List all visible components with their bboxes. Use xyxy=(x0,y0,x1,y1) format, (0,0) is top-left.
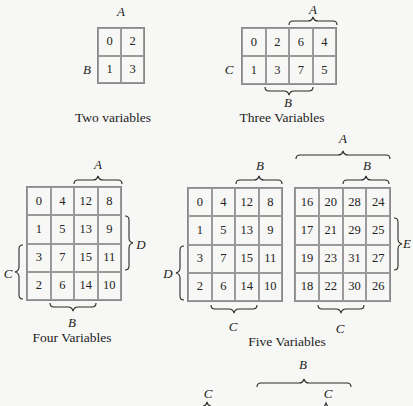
kmap-cell: 0 xyxy=(27,187,51,215)
var-label-c-left: C xyxy=(204,386,213,402)
kmap-grid-left: 0 4 12 8 1 5 13 9 3 7 15 11 2 6 14 10 xyxy=(187,187,283,302)
kmap-grid-right: 16 20 28 24 17 21 29 25 19 23 31 27 18 2… xyxy=(294,187,391,302)
var-label-a: A xyxy=(94,157,102,173)
kmap-cell: 8 xyxy=(259,188,283,216)
kmap-grid: 0 2 1 3 xyxy=(97,27,145,84)
var-label-d: D xyxy=(163,266,172,282)
kmap-cell: 6 xyxy=(289,28,313,56)
kmap-cell: 20 xyxy=(319,188,343,216)
kmap-cell: 4 xyxy=(212,188,236,216)
brace-six-b xyxy=(257,379,351,387)
var-label-c-left: C xyxy=(229,319,238,335)
brace-five-b-left xyxy=(236,176,282,184)
var-label-c: C xyxy=(4,266,13,282)
kmap-cell: 2 xyxy=(121,28,144,56)
brace-five-b-right xyxy=(343,176,389,184)
kmap-cell: 0 xyxy=(188,188,212,216)
var-label-a: A xyxy=(309,2,317,18)
brace-five-c-left xyxy=(211,305,257,313)
kmap-cell: 18 xyxy=(295,273,319,301)
kmap-cell: 12 xyxy=(235,188,259,216)
var-label-a: A xyxy=(339,131,347,147)
kmap-cell: 2 xyxy=(27,272,51,300)
kmap-cell: 11 xyxy=(259,245,283,273)
var-label-e: E xyxy=(403,236,411,252)
kmap-cell: 10 xyxy=(98,272,122,300)
kmap-cell: 2 xyxy=(188,273,212,301)
var-label-c-right: C xyxy=(324,386,333,402)
kmap-cell: 7 xyxy=(212,245,236,273)
kmap-cell: 12 xyxy=(74,187,98,215)
kmap-cell: 4 xyxy=(51,187,75,215)
var-label-b: B xyxy=(83,62,91,78)
caption-two-variables: Two variables xyxy=(75,110,151,126)
kmap-cell: 21 xyxy=(319,216,343,244)
kmap-cell: 15 xyxy=(74,244,98,272)
kmap-cell: 19 xyxy=(295,245,319,273)
kmap-cell: 17 xyxy=(295,216,319,244)
brace-five-d xyxy=(176,246,184,300)
kmap-cell: 26 xyxy=(366,273,390,301)
kmap-cell: 10 xyxy=(259,273,283,301)
kmap-cell: 13 xyxy=(235,216,259,244)
brace-three-a xyxy=(289,17,337,25)
kmap-cell: 2 xyxy=(266,28,290,56)
var-label-b-left: B xyxy=(256,158,264,174)
kmap-cell: 23 xyxy=(319,245,343,273)
kmap-cell: 4 xyxy=(313,28,337,56)
kmap-cell: 25 xyxy=(366,216,390,244)
kmap-cell: 3 xyxy=(266,56,290,84)
kmap-cell: 14 xyxy=(235,273,259,301)
kmap-cell: 28 xyxy=(343,188,367,216)
kmap-cell: 5 xyxy=(51,215,75,243)
kmap-cell: 9 xyxy=(98,215,122,243)
kmap-cell: 31 xyxy=(343,245,367,273)
brace-five-a xyxy=(296,151,390,159)
kmap-cell: 16 xyxy=(295,188,319,216)
kmap-cell: 5 xyxy=(212,216,236,244)
var-label-b: B xyxy=(68,315,76,331)
brace-four-d xyxy=(125,216,133,270)
kmap-cell: 27 xyxy=(366,245,390,273)
kmap-cell: 7 xyxy=(51,244,75,272)
brace-four-b xyxy=(50,303,96,311)
kmap-cell: 11 xyxy=(98,244,122,272)
kmap-cell: 1 xyxy=(27,215,51,243)
brace-four-a xyxy=(74,176,122,184)
caption-three-variables: Three Variables xyxy=(240,110,325,126)
kmap-cell: 13 xyxy=(74,215,98,243)
kmap-cell: 6 xyxy=(51,272,75,300)
kmap-cell: 1 xyxy=(98,56,121,84)
caption-five-variables: Five Variables xyxy=(248,334,325,350)
var-label-b: B xyxy=(299,357,307,373)
var-label-a: A xyxy=(117,4,125,20)
brace-six-c-left-tip xyxy=(203,402,211,406)
var-label-d: D xyxy=(136,237,145,253)
var-label-c: C xyxy=(225,62,234,78)
kmap-cell: 0 xyxy=(242,28,266,56)
brace-five-e xyxy=(394,218,402,270)
var-label-c-right: C xyxy=(336,321,345,337)
kmap-cell: 1 xyxy=(188,216,212,244)
caption-four-variables: Four Variables xyxy=(33,330,112,346)
kmap-cell: 5 xyxy=(313,56,337,84)
brace-three-b xyxy=(265,87,313,95)
kmap-cell: 7 xyxy=(289,56,313,84)
brace-five-c-right xyxy=(318,305,364,313)
kmap-cell: 9 xyxy=(259,216,283,244)
kmap-cell: 3 xyxy=(188,245,212,273)
kmap-grid: 0 2 6 4 1 3 7 5 xyxy=(241,27,337,85)
kmap-cell: 22 xyxy=(319,273,343,301)
var-label-b: B xyxy=(284,95,292,111)
kmap-cell: 14 xyxy=(74,272,98,300)
kmap-cell: 29 xyxy=(343,216,367,244)
kmap-grid: 0 4 12 8 1 5 13 9 3 7 15 11 2 6 14 10 xyxy=(26,186,122,301)
var-label-b-right: B xyxy=(363,158,371,174)
kmap-cell: 3 xyxy=(27,244,51,272)
kmap-cell: 0 xyxy=(98,28,121,56)
kmap-cell: 8 xyxy=(98,187,122,215)
kmap-cell: 24 xyxy=(366,188,390,216)
kmap-cell: 30 xyxy=(343,273,367,301)
brace-four-c xyxy=(15,245,23,299)
kmap-cell: 15 xyxy=(235,245,259,273)
